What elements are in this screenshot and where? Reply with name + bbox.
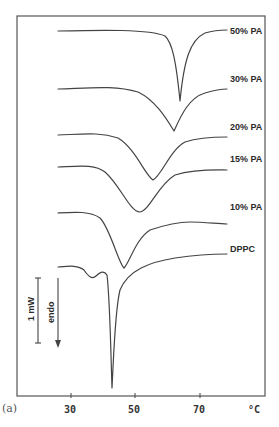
label-15pa: 15% PA (230, 154, 263, 164)
curve-50pa (58, 30, 227, 101)
plot-frame (17, 16, 265, 396)
label-20pa: 20% PA (230, 122, 263, 132)
x-axis-unit: °C (248, 404, 260, 415)
curve-30pa (58, 88, 227, 132)
label-50pa: 50% PA (230, 26, 263, 36)
label-10pa: 10% PA (230, 202, 263, 212)
panel-label: (a) (2, 402, 17, 415)
scale-label: 1 mW (26, 296, 36, 321)
curve-10pa (58, 212, 227, 268)
arrow-down-icon (55, 340, 61, 348)
label-dppc: DPPC (230, 244, 256, 254)
curve-dppc (58, 254, 227, 388)
tick-label-30: 30 (64, 404, 76, 415)
curve-15pa (58, 166, 227, 212)
dsc-thermogram-chart: 50% PA 30% PA 20% PA 15% PA 10% PA DPPC … (0, 0, 279, 427)
tick-label-50: 50 (128, 404, 140, 415)
tick-label-70: 70 (193, 404, 205, 415)
endo-label: endo (46, 301, 56, 323)
label-30pa: 30% PA (230, 74, 263, 84)
curve-20pa (58, 134, 227, 180)
